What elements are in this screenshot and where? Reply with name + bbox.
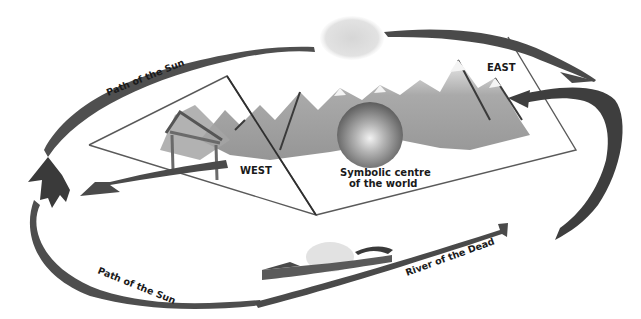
sun-path-arrow-east — [516, 87, 623, 240]
label-west: WEST — [240, 165, 272, 176]
label-centre-line2: of the world — [349, 178, 418, 189]
symbolic-sphere — [337, 102, 403, 168]
sun-path-arrowhead-east — [508, 90, 530, 108]
cosmology-diagram: Path of the Sun EAST WEST Symbolic centr… — [0, 0, 641, 319]
sun-cloud-icon — [320, 16, 384, 60]
label-centre-line1: Symbolic centre — [340, 167, 431, 178]
label-east: EAST — [487, 62, 516, 73]
label-path-of-sun-top: Path of the Sun — [105, 56, 186, 97]
